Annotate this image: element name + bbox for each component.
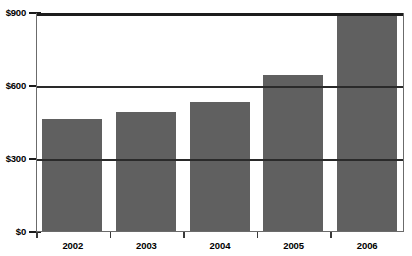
y-axis-label-0: $0 bbox=[0, 226, 26, 237]
y-axis-label-600: $600 bbox=[0, 80, 26, 91]
x-axis-tick-2005 bbox=[257, 232, 259, 238]
bar-2004[interactable] bbox=[190, 102, 250, 231]
x-axis-tick-2006 bbox=[330, 232, 332, 238]
plot-area bbox=[36, 13, 404, 232]
gridline-300 bbox=[37, 159, 403, 161]
bar-chart: $900 $600 $300 $0 2002 2003 2004 2005 20… bbox=[0, 0, 412, 256]
x-axis-tick-2004 bbox=[183, 232, 185, 238]
y-axis-label-900: $900 bbox=[0, 7, 26, 18]
bar-2003[interactable] bbox=[116, 112, 176, 231]
x-axis-label-2005: 2005 bbox=[257, 240, 331, 251]
x-axis-label-2004: 2004 bbox=[183, 240, 257, 251]
x-axis-tick-2003 bbox=[110, 232, 112, 238]
x-axis-label-2002: 2002 bbox=[36, 240, 110, 251]
x-axis-label-2003: 2003 bbox=[110, 240, 184, 251]
gridline-600 bbox=[37, 86, 403, 88]
bar-2006[interactable] bbox=[337, 14, 397, 231]
x-axis-tick-2002 bbox=[36, 232, 38, 238]
x-axis-label-2006: 2006 bbox=[330, 240, 404, 251]
bar-2002[interactable] bbox=[42, 119, 102, 231]
bar-2005[interactable] bbox=[263, 75, 323, 231]
y-axis-label-300: $300 bbox=[0, 153, 26, 164]
gridline-900 bbox=[37, 13, 403, 16]
